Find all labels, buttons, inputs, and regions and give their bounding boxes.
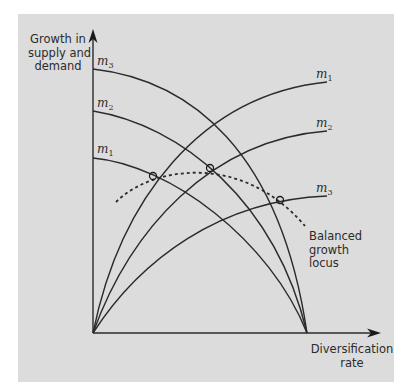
curve-label-base: m xyxy=(97,142,108,156)
x-axis-label-line: rate xyxy=(310,357,394,371)
curve-label-m3-descending: m3 xyxy=(97,55,113,72)
curve-label-m3-ascending: m3 xyxy=(316,182,332,199)
curve-label-base: m xyxy=(97,54,108,68)
curve-label-m2-descending: m2 xyxy=(97,97,113,114)
curve-label-sub: 2 xyxy=(327,123,332,132)
y-axis-label-line: supply and xyxy=(28,47,88,61)
curve-label-sub: 1 xyxy=(108,149,113,158)
curve-label-m1-ascending: m1 xyxy=(316,68,332,85)
locus-label-line: locus xyxy=(309,257,362,271)
curve-label-base: m xyxy=(316,181,327,195)
curve-label-m2-ascending: m2 xyxy=(316,117,332,134)
curve-m1-descending xyxy=(93,158,307,333)
locus-label-line: growth xyxy=(309,244,362,258)
curve-label-sub: 2 xyxy=(108,103,113,112)
y-axis-label-line: demand xyxy=(28,60,88,74)
locus-label-line: Balanced xyxy=(309,230,362,244)
equilibrium-markers xyxy=(150,165,284,204)
curve-label-sub: 1 xyxy=(327,74,332,83)
curve-label-sub: 3 xyxy=(327,188,332,197)
balanced-growth-locus-label: Balanced growth locus xyxy=(309,230,362,271)
y-axis-label: Growth in supply and demand xyxy=(28,33,88,74)
curve-label-base: m xyxy=(316,116,327,130)
y-axis-label-line: Growth in xyxy=(28,33,88,47)
curve-label-base: m xyxy=(316,67,327,81)
curve-m2-descending xyxy=(93,111,307,333)
curve-m3-ascending xyxy=(93,196,327,333)
curve-label-m1-descending: m1 xyxy=(97,143,113,160)
descending-curves xyxy=(93,69,307,333)
curve-m3-descending xyxy=(93,69,307,333)
x-axis-label: Diversification rate xyxy=(310,343,394,370)
curve-label-sub: 3 xyxy=(108,61,113,70)
x-axis-label-line: Diversification xyxy=(310,343,394,357)
curve-label-base: m xyxy=(97,96,108,110)
diagram-figure: Growth in supply and demand Diversificat… xyxy=(0,0,402,391)
